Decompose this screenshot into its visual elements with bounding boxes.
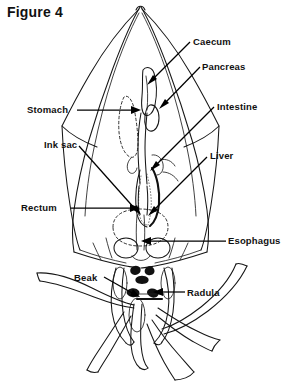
label-radula: Radula bbox=[187, 287, 220, 298]
squid-anatomy-diagram bbox=[0, 0, 292, 383]
leader-pancreas bbox=[159, 67, 200, 109]
label-pancreas: Pancreas bbox=[202, 61, 245, 72]
label-liver: Liver bbox=[210, 150, 233, 161]
mantle-opening bbox=[74, 238, 207, 268]
leader-stomach bbox=[77, 106, 141, 114]
leader-intestine bbox=[150, 107, 214, 171]
label-beak: Beak bbox=[74, 272, 97, 283]
digestive-organs bbox=[113, 68, 178, 250]
label-caecum: Caecum bbox=[193, 36, 231, 47]
label-rectum: Rectum bbox=[21, 202, 57, 213]
label-intestine: Intestine bbox=[217, 101, 257, 112]
figure-container: Figure 4 bbox=[0, 0, 292, 383]
label-stomach: Stomach bbox=[27, 104, 68, 115]
label-esophagus: Esophagus bbox=[228, 235, 281, 246]
leader-rectum bbox=[71, 204, 140, 212]
label-ink-sac: Ink sac bbox=[44, 139, 77, 150]
